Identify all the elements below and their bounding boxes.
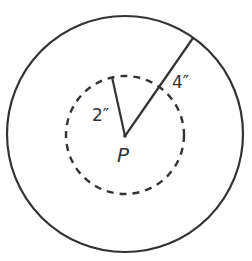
inner-radius-label: 2″ xyxy=(92,105,109,125)
outer-radius-label: 4″ xyxy=(172,72,189,92)
center-point xyxy=(123,134,127,138)
inner-radius-line xyxy=(112,77,125,136)
concentric-circles-diagram: 2″ 4″ P xyxy=(0,0,252,261)
center-label: P xyxy=(117,143,130,167)
